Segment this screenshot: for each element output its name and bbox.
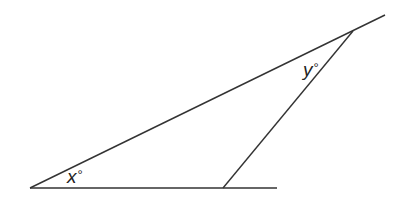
angle-y-label: y° — [303, 60, 319, 79]
short-side-line — [223, 31, 353, 188]
long-side-line — [30, 15, 385, 188]
degree-symbol: ° — [78, 167, 83, 182]
angle-x-label: x° — [67, 167, 83, 186]
angle-x-variable: x — [67, 166, 77, 187]
triangle-diagram — [0, 0, 406, 203]
degree-symbol: ° — [314, 60, 319, 75]
angle-y-variable: y — [303, 59, 313, 80]
